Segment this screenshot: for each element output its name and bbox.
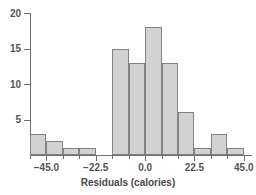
- histogram-chart: 5101520 −45.0−22.50.022.545.0 Residuals …: [0, 0, 256, 195]
- y-tick-label: 15: [10, 44, 21, 54]
- x-axis-title: Residuals (calories): [0, 177, 256, 189]
- histogram-bars: [30, 13, 252, 155]
- histogram-bar: [178, 112, 194, 155]
- x-tick-label: 0.0: [138, 162, 152, 173]
- x-tick-minor: [178, 156, 179, 159]
- x-tick-label: −45.0: [34, 162, 59, 173]
- x-tick-label: −22.5: [83, 162, 108, 173]
- x-tick-major: [194, 156, 195, 161]
- y-tick-label: 5: [15, 115, 21, 125]
- x-tick-label: 22.5: [185, 162, 204, 173]
- y-tick-label: 20: [10, 9, 21, 19]
- histogram-bar: [79, 148, 95, 155]
- x-tick-major: [244, 156, 245, 161]
- histogram-bar: [211, 134, 227, 155]
- histogram-bar: [227, 148, 243, 155]
- x-tick-major: [96, 156, 97, 161]
- x-tick-major: [145, 156, 146, 161]
- x-tick-minor: [112, 156, 113, 159]
- x-tick-minor: [30, 156, 31, 159]
- x-tick-minor: [227, 156, 228, 159]
- x-tick-minor: [211, 156, 212, 159]
- x-tick-major: [46, 156, 47, 161]
- histogram-bar: [46, 141, 62, 155]
- x-tick-minor: [129, 156, 130, 159]
- histogram-bar: [162, 63, 178, 155]
- histogram-bar: [129, 63, 145, 155]
- histogram-bar: [112, 49, 128, 156]
- histogram-bar: [145, 27, 161, 155]
- y-tick-label: 10: [10, 80, 21, 90]
- x-tick-minor: [162, 156, 163, 159]
- x-tick-minor: [79, 156, 80, 159]
- x-tick-label: 45.0: [234, 162, 253, 173]
- x-tick-minor: [63, 156, 64, 159]
- histogram-bar: [30, 134, 46, 155]
- histogram-bar: [194, 148, 210, 155]
- histogram-bar: [63, 148, 79, 155]
